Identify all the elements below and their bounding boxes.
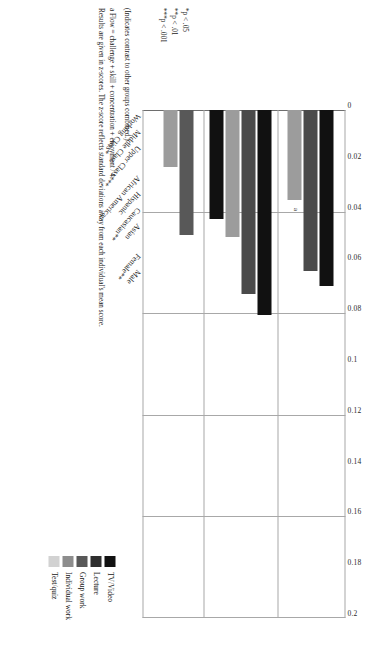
bar-middle-class[interactable]: [303, 110, 317, 271]
footnote-contrast: (Indicates contrast to other groups comb…: [120, 8, 131, 648]
axis-tick-5: 0.1: [347, 355, 357, 364]
plot-area: a: [142, 110, 345, 618]
significance-p001: ***p < .001: [157, 8, 168, 168]
bar-asian[interactable]: [209, 110, 223, 219]
figure: 0 0.02 0.04 0.06 0.08 0.1 0.12 0.14 0.16…: [0, 0, 377, 672]
bar-hispanic[interactable]: [241, 110, 255, 294]
axis-tick-6: 0.12: [347, 406, 361, 415]
axis-tick-9: 0.18: [347, 558, 361, 567]
bar-annotation-a: a: [291, 208, 298, 211]
bar-series-container: a: [142, 110, 345, 618]
axis-tick-7: 0.14: [347, 457, 361, 466]
axis-tick-8: 0.16: [347, 507, 361, 516]
legend-item-group-work[interactable]: Group work: [76, 556, 87, 668]
legend-label-group-work: Group work: [77, 572, 86, 608]
significance-p05: *p < .05: [178, 8, 189, 168]
bar-working-class[interactable]: [319, 110, 333, 286]
axis-tick-0: 0: [347, 101, 351, 110]
significance-p01: **p < .01: [167, 8, 178, 168]
axis-tick-1: 0.02: [347, 152, 361, 161]
footnote-zscore-explanation: Results are given in z-scores. The z-sco…: [94, 8, 105, 648]
axis-tick-10: 0.2: [347, 609, 357, 618]
axis-tick-3: 0.06: [347, 253, 361, 262]
legend-swatch-icon-group-work: [76, 556, 87, 567]
legend-label-test-quiz: Test/quiz: [49, 572, 58, 599]
chart-rotated-stage: 0 0.02 0.04 0.06 0.08 0.1 0.12 0.14 0.16…: [0, 0, 377, 672]
footnote-flow-definition: a Flow = challenge + skill + concentrati…: [105, 8, 116, 648]
legend-label-individual-work: Individual work: [63, 572, 72, 620]
legend-swatch-icon-individual-work: [62, 556, 73, 567]
bar-african-american[interactable]: [257, 110, 271, 315]
legend-item-individual-work[interactable]: Individual work: [62, 556, 73, 668]
significance-key: *p < .05 **p < .01 ***p < .001: [157, 8, 189, 168]
legend-item-test-quiz[interactable]: Test/quiz: [48, 556, 59, 668]
figure-footnotes: (Indicates contrast to other groups comb…: [94, 8, 131, 648]
value-axis-ticks: 0 0.02 0.04 0.06 0.08 0.1 0.12 0.14 0.16…: [345, 110, 377, 618]
legend-swatch-icon-test-quiz: [48, 556, 59, 567]
bar-upper-class[interactable]: [287, 110, 301, 200]
axis-tick-4: 0.08: [347, 304, 361, 313]
bar-caucasian[interactable]: [225, 110, 239, 237]
axis-tick-2: 0.04: [347, 203, 361, 212]
